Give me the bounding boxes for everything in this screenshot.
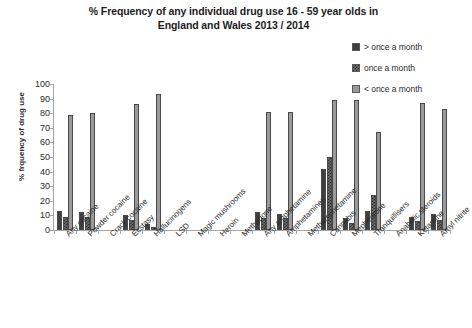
bar-group [54, 84, 76, 230]
legend-label: once a month [364, 63, 415, 73]
x-axis-labels: Any cocainePowder cocaineCrack cocaineEc… [53, 232, 449, 328]
y-tick-label-100: 100 [26, 80, 50, 89]
y-tick-label-10: 10 [26, 211, 50, 220]
legend-label: > once a month [364, 42, 422, 52]
bar [156, 94, 161, 230]
y-tick-label-80: 80 [26, 109, 50, 118]
chart-title: % Frequency of any individual drug use 1… [0, 4, 467, 32]
chart-title-line-2: England and Wales 2013 / 2014 [0, 18, 467, 32]
legend-item-1[interactable]: once a month [352, 57, 467, 78]
y-tick-label-60: 60 [26, 138, 50, 147]
y-tick-label-50: 50 [26, 153, 50, 162]
y-tick-label-0: 0 [26, 226, 50, 235]
legend-swatch-icon [352, 64, 360, 72]
y-tick-label-20: 20 [26, 196, 50, 205]
y-tick-label-40: 40 [26, 167, 50, 176]
y-tick-label-30: 30 [26, 182, 50, 191]
y-tick-label-90: 90 [26, 94, 50, 103]
bar-group [230, 84, 252, 230]
y-axis-tick-labels: 0102030405060708090100 [26, 84, 50, 230]
legend-swatch-icon [352, 43, 360, 51]
legend-item-0[interactable]: > once a month [352, 36, 467, 57]
bar [354, 100, 359, 230]
bar-group [142, 84, 164, 230]
bar [68, 115, 73, 230]
y-tick-label-70: 70 [26, 123, 50, 132]
y-axis-title: % frquency of drug use [17, 72, 26, 202]
bar-group [186, 84, 208, 230]
bar [57, 211, 62, 230]
chart-title-line-1: % Frequency of any individual drug use 1… [0, 4, 467, 18]
